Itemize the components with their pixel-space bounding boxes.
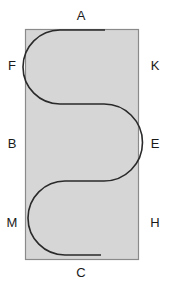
region-rectangle — [26, 30, 139, 260]
label-right-top: K — [151, 59, 160, 72]
label-left-bottom: M — [7, 216, 18, 229]
label-top: A — [77, 9, 86, 22]
label-left-middle: B — [8, 137, 17, 150]
label-right-bottom: H — [150, 216, 159, 229]
label-left-top: F — [8, 59, 16, 72]
label-right-middle: E — [151, 137, 160, 150]
label-bottom: C — [76, 266, 85, 279]
diagram-canvas — [0, 0, 174, 286]
